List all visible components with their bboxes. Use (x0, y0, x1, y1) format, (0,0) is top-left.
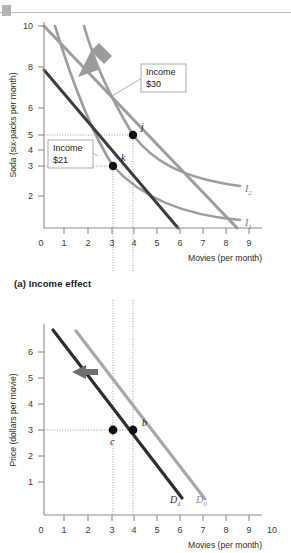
curve-label-i2: I2 (244, 183, 252, 197)
x-ticks-panel-a (64, 228, 249, 234)
chart-demand-shift: 6 5 4 3 2 1 0 1 2 3 4 5 6 7 8 9 10 Movie… (0, 300, 291, 553)
x-tick-1-a: 1 (61, 238, 66, 248)
callout-income-21-line1: Income (53, 143, 83, 153)
demand-curve-d0 (76, 331, 205, 499)
x-tick-5-a: 5 (154, 238, 159, 248)
y-axis-title-panel-a: Soda (six-packs per month) (8, 72, 18, 177)
x-tick-1-b: 1 (61, 525, 66, 535)
x-tick-9-a: 9 (246, 238, 251, 248)
y-tick-4-b: 4 (28, 399, 33, 409)
point-c-marker (109, 426, 118, 435)
demand-curve-d1 (53, 330, 182, 498)
callout-income-30: Income $30 (112, 64, 186, 96)
x-tick-4-a: 4 (131, 238, 136, 248)
point-c-label: c (110, 436, 115, 447)
x-ticks-panel-b (64, 515, 249, 521)
panel-a-caption: (a) Income effect (14, 278, 91, 289)
x-tick-8-b: 8 (223, 525, 228, 535)
y-tick-3-b: 3 (28, 425, 33, 435)
x-tick-8-a: 8 (223, 238, 228, 248)
indifference-curve-i2 (84, 26, 240, 186)
curve-label-i1: I1 (244, 217, 252, 231)
x-tick-labels-panel-b: 0 1 2 3 4 5 6 7 8 9 10 (38, 525, 277, 535)
callout-income-30-line2: $30 (146, 79, 161, 89)
y-tick-1-b: 1 (28, 477, 33, 487)
x-tick-7-a: 7 (200, 238, 205, 248)
x-tick-0-b: 0 (38, 525, 43, 535)
demand-shift-arrow (72, 365, 98, 379)
y-tick-labels-panel-a: 10 8 6 5 4 3 2 (23, 21, 33, 201)
y-tick-2-a: 2 (28, 191, 33, 201)
y-ticks-panel-a (38, 26, 44, 196)
callout-income-30-line1: Income (146, 67, 176, 77)
point-k-label: k (121, 152, 126, 163)
point-b-label: b (142, 417, 147, 428)
callout-income-21-line2: $21 (53, 155, 68, 165)
x-tick-6-a: 6 (177, 238, 182, 248)
x-tick-2-a: 2 (85, 238, 90, 248)
x-tick-5-b: 5 (154, 525, 159, 535)
y-tick-4-a: 4 (28, 145, 33, 155)
y-axis-title-panel-b: Price (dollars per movie) (8, 373, 18, 466)
point-k-marker (109, 162, 117, 170)
x-tick-4-b: 4 (131, 525, 136, 535)
x-tick-2-b: 2 (85, 525, 90, 535)
callout-income-21: Income $21 (48, 140, 98, 168)
y-tick-6-b: 6 (28, 347, 33, 357)
x-tick-0-a: 0 (38, 238, 43, 248)
y-tick-5-b: 5 (28, 373, 33, 383)
y-tick-5-a: 5 (28, 130, 33, 140)
y-tick-labels-panel-b: 6 5 4 3 2 1 (28, 347, 33, 487)
point-j-marker (129, 131, 137, 139)
x-tick-9-b: 9 (246, 525, 251, 535)
x-axis-title-panel-b: Movies (per month) (188, 540, 262, 550)
x-tick-10-b: 10 (267, 525, 277, 535)
x-tick-3-a: 3 (109, 238, 114, 248)
x-tick-labels-panel-a: 0 1 2 3 4 5 6 7 8 9 (38, 238, 251, 248)
y-tick-3-a: 3 (28, 161, 33, 171)
y-ticks-panel-b (38, 352, 44, 482)
x-tick-7-b: 7 (200, 525, 205, 535)
chart-income-effect: 10 8 6 5 4 3 2 0 1 2 3 4 5 6 7 8 9 Movie… (0, 0, 291, 275)
point-b-marker (129, 426, 138, 435)
y-tick-2-b: 2 (28, 451, 33, 461)
x-axis-title-panel-a: Movies (per month) (188, 253, 262, 263)
y-tick-10-a: 10 (23, 21, 33, 31)
income-shift-arrow (78, 43, 112, 77)
x-tick-6-b: 6 (177, 525, 182, 535)
y-tick-8-a: 8 (28, 62, 33, 72)
curve-label-d0: D0 (195, 494, 207, 508)
y-tick-6-a: 6 (28, 103, 33, 113)
x-tick-3-b: 3 (109, 525, 114, 535)
